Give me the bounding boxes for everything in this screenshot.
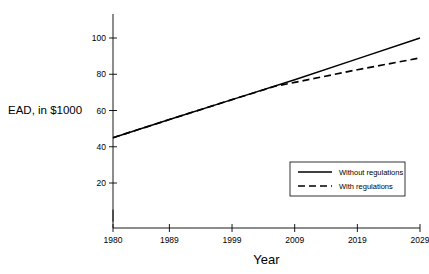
- series-line-1: [113, 58, 420, 138]
- legend-label-1: With regulations: [339, 182, 393, 191]
- x-tick-label: 1989: [160, 235, 179, 245]
- legend-label-0: Without regulations: [339, 168, 403, 177]
- y-tick-label: 60: [78, 106, 106, 116]
- y-tick-label: 100: [78, 33, 106, 43]
- x-axis-title: Year: [253, 252, 279, 267]
- y-tick-label: 40: [78, 142, 106, 152]
- x-tick-label: 1999: [223, 235, 242, 245]
- series-layer: [113, 38, 420, 138]
- y-axis-title: EAD, in $1000: [8, 104, 82, 116]
- x-tick-label: 2029: [411, 235, 429, 245]
- x-tick-label: 2009: [285, 235, 304, 245]
- y-tick-label: 20: [78, 178, 106, 188]
- axis-layer: [109, 14, 420, 232]
- y-tick-label: 80: [78, 69, 106, 79]
- x-tick-label: 2019: [348, 235, 367, 245]
- x-tick-label: 1980: [104, 235, 123, 245]
